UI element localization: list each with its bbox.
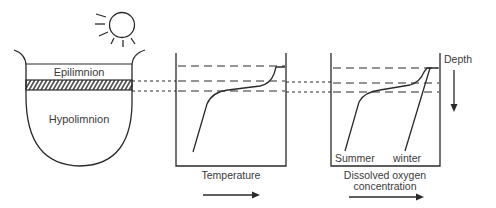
temperature-panel-frame bbox=[176, 53, 286, 166]
layer-dashed-lines bbox=[178, 66, 285, 91]
summer-curve-label: Summer bbox=[335, 152, 375, 164]
epilimnion-label: Epilimnion bbox=[54, 66, 105, 78]
temperature-profile-curve bbox=[193, 67, 285, 152]
sun-icon bbox=[95, 13, 135, 48]
depth-indicator: Depth bbox=[444, 53, 472, 112]
thermocline-hatched-band bbox=[26, 80, 132, 90]
right-arrow-icon bbox=[203, 192, 260, 199]
oxygen-panel-frame bbox=[331, 53, 440, 166]
right-arrow-icon bbox=[349, 194, 424, 201]
stratification-diagram: Epilimnion Hypolimnion Temperature bbox=[0, 0, 496, 208]
hypolimnion-label: Hypolimnion bbox=[49, 113, 110, 125]
oxygen-axis-label-line2: concentration bbox=[353, 180, 416, 192]
temperature-panel: Temperature bbox=[176, 53, 286, 199]
oxygen-panel: Summer winter Dissolved oxygen concentra… bbox=[331, 53, 440, 201]
winter-curve-label: winter bbox=[392, 152, 422, 164]
temperature-axis-label: Temperature bbox=[202, 169, 261, 181]
down-arrow-icon bbox=[451, 70, 458, 112]
lake-cross-section: Epilimnion Hypolimnion bbox=[14, 50, 145, 166]
summer-oxygen-curve bbox=[345, 68, 438, 151]
thermocline-dotted-connectors bbox=[132, 81, 331, 92]
depth-label: Depth bbox=[444, 53, 472, 65]
